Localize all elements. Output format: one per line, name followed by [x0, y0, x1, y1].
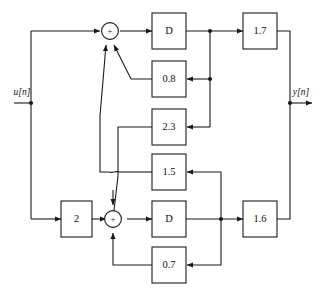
gain-1-6-label: 1.6: [253, 213, 266, 224]
bottom-summer-sign: +: [111, 215, 116, 224]
gain-0-7-label: 0.7: [162, 259, 175, 270]
wire-gain17-to-output: [277, 31, 290, 103]
gain-input-label: 2: [74, 213, 79, 224]
top-summer-sign: +: [108, 27, 113, 36]
output-label: y[n]: [292, 87, 310, 97]
gain-1-5-label: 1.5: [162, 166, 175, 177]
wire-gain08-to-top-summer: [114, 45, 152, 79]
wire-tap-to-gain07: [187, 219, 221, 265]
gain-1-7-label: 1.7: [253, 25, 266, 36]
wire-gain23-down: [113, 127, 152, 219]
delay-top-label: D: [165, 25, 173, 36]
wire-tap-to-gain15: [187, 172, 221, 219]
gain-2-3-label: 2.3: [162, 121, 175, 132]
wire-gain15-to-top-summer: [100, 45, 109, 172]
node-input: [29, 101, 33, 105]
input-label: u[n]: [14, 87, 31, 97]
delay-bottom-label: D: [165, 213, 173, 224]
gain-0-8-label: 0.8: [162, 73, 175, 84]
block-diagram-canvas: 2 D 0.8 2.3 1.5 D 0.7 1.7 1.6 + + u[n] y…: [0, 0, 322, 291]
wire-gain16-to-output: [277, 103, 290, 219]
wire-gain07-to-bottom-summer: [113, 233, 152, 265]
block-diagram: 2 D 0.8 2.3 1.5 D 0.7 1.7 1.6 + + u[n] y…: [0, 0, 322, 291]
